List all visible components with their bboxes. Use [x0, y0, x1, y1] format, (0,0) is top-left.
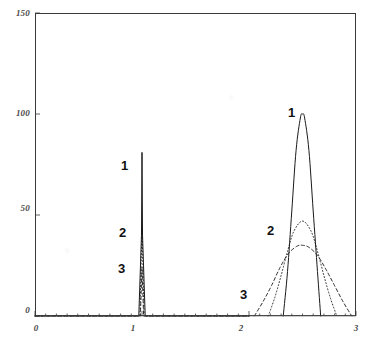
y-tick-label-0: 0 — [2, 305, 30, 315]
y-tick-label-150: 150 — [2, 8, 30, 18]
chart-figure: 150 100 50 0 0 1 2 3 1 2 3 1 2 3 — [0, 0, 373, 348]
x-tick-label-3: 3 — [348, 323, 364, 333]
curves-layer — [35, 13, 356, 316]
curve-label-2-left: 2 — [119, 226, 126, 239]
curve-label-3-right: 3 — [240, 288, 247, 301]
y-tick-label-100: 100 — [2, 108, 30, 118]
x-tick-label-2: 2 — [233, 323, 249, 333]
curve-label-1-left: 1 — [121, 159, 128, 172]
y-tick-label-50: 50 — [2, 203, 30, 213]
curve-3-right — [254, 245, 351, 316]
curve-label-2-right: 2 — [267, 224, 274, 237]
curve-2-right — [268, 221, 336, 316]
curve-label-1-right: 1 — [288, 106, 295, 119]
x-tick-label-1: 1 — [125, 323, 141, 333]
x-tick-label-0: 0 — [28, 323, 44, 333]
curve-3-left — [35, 268, 249, 316]
curve-label-3-left: 3 — [118, 262, 125, 275]
curve-1-right — [283, 114, 320, 316]
